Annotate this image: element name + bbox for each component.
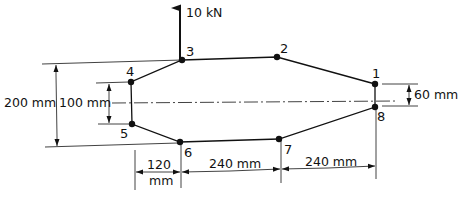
node-4 [128,79,134,85]
node-label-7: 7 [284,143,292,156]
node-label-2: 2 [280,42,288,55]
dim-label-240-b: 240 mm [305,156,357,169]
node-label-1: 1 [372,67,380,80]
node-label-3: 3 [186,45,194,58]
ext-line-top [42,60,182,64]
node-7 [276,136,282,142]
node-3 [179,57,185,63]
dim-240-a [182,171,230,172]
ext-line-bottom [45,143,178,147]
node-6 [177,139,183,145]
node-label-6: 6 [184,146,192,159]
dim-label-60: 60 mm [414,89,458,102]
dim-label-100: 100 mm [59,97,111,110]
dim-label-240-a: 240 mm [209,158,261,171]
dim-label-200: 200 mm [4,97,56,110]
dim-label-120-bottom: mm [149,175,173,188]
truss-outline [131,57,375,142]
ext-line-4 [96,82,129,83]
node-1 [372,81,378,87]
node-label-8: 8 [377,110,385,123]
node-5 [129,121,135,127]
load-label: 10 kN [186,7,222,20]
centerline [112,101,398,103]
dim-label-120-top: 120 [147,159,171,172]
node-label-4: 4 [126,65,134,78]
node-label-5: 5 [120,127,128,140]
